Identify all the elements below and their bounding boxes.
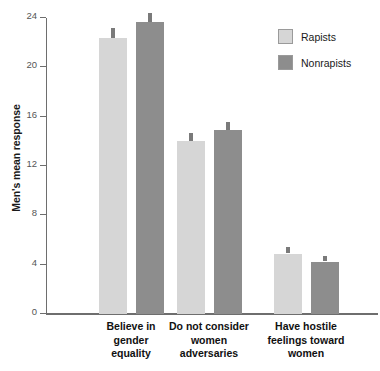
error-bar-rapists-group-1 (111, 28, 115, 38)
error-bar-nonrapists-group-3 (323, 256, 327, 262)
error-bar-rapists-group-2 (189, 133, 193, 142)
y-tick-label-4: 4 (32, 257, 37, 268)
y-tick-0: 0 (40, 313, 46, 314)
y-tick-20: 20 (40, 66, 46, 67)
y-tick-12: 12 (40, 165, 46, 166)
bar-rapists-group-2 (177, 141, 205, 314)
y-tick-16: 16 (40, 116, 46, 117)
chart-legend: Rapists Nonrapists (278, 29, 351, 81)
y-tick-label-0: 0 (32, 306, 37, 317)
y-tick-label-16: 16 (26, 109, 37, 120)
legend-swatch-icon-rapists (278, 29, 293, 44)
bar-nonrapists-group-1 (136, 22, 164, 314)
y-tick-label-8: 8 (32, 207, 37, 218)
bar-rapists-group-3 (274, 254, 302, 314)
y-tick-24: 24 (40, 17, 46, 18)
legend-entry-nonrapists: Nonrapists (278, 55, 351, 70)
x-group-label-line: Have hostile (246, 320, 366, 334)
y-axis-line (46, 18, 47, 314)
error-bar-rapists-group-3 (286, 247, 290, 253)
y-axis-title: Men's mean response (10, 83, 22, 233)
bar-rapists-group-1 (99, 38, 127, 314)
legend-entry-rapists: Rapists (278, 29, 351, 44)
y-tick-label-20: 20 (26, 59, 37, 70)
legend-label-rapists: Rapists (301, 31, 336, 43)
bar-nonrapists-group-3 (311, 262, 339, 314)
legend-swatch-icon-nonrapists (278, 55, 293, 70)
error-bar-nonrapists-group-2 (226, 122, 230, 130)
y-tick-label-12: 12 (26, 158, 37, 169)
x-group-label-line: women (246, 347, 366, 361)
bar-nonrapists-group-2 (214, 130, 242, 314)
bar-chart: Men's mean response 04812162024 Believe … (0, 0, 380, 371)
x-group-label-3: Have hostilefeelings towardwomen (246, 320, 366, 361)
error-bar-nonrapists-group-1 (148, 13, 152, 22)
y-tick-label-24: 24 (26, 10, 37, 21)
x-group-label-line: feelings toward (246, 334, 366, 348)
y-tick-4: 4 (40, 264, 46, 265)
y-tick-8: 8 (40, 214, 46, 215)
legend-label-nonrapists: Nonrapists (301, 57, 351, 69)
